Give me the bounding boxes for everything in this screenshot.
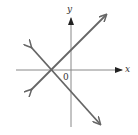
coordinate-diagram: y x 0: [0, 0, 138, 135]
line-negative-slope: [31, 47, 100, 124]
x-axis-label: x: [125, 64, 130, 74]
origin-label: 0: [63, 72, 69, 82]
diagram-canvas: y x 0: [0, 0, 138, 135]
y-axis-label: y: [66, 4, 73, 14]
